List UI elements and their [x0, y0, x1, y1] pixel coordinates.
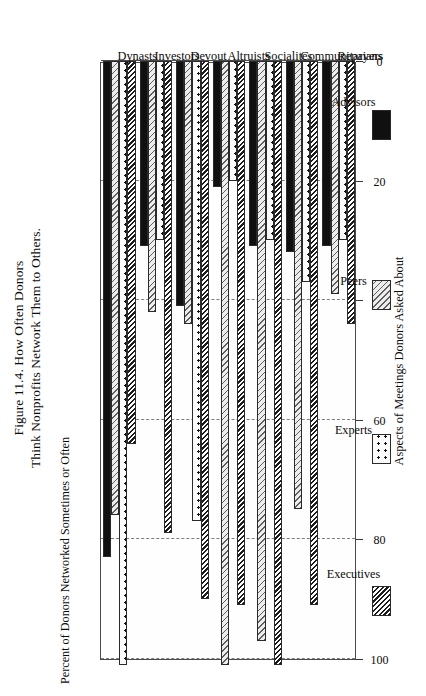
bar-socialites-experts	[266, 61, 274, 240]
bar-investors-peers	[148, 61, 156, 312]
bar-investors-experts	[156, 61, 164, 240]
bar-communitarians-experts	[302, 61, 310, 282]
bar-altruists-peers	[221, 61, 229, 665]
figure-canvas: Figure 11.4. How Often Donors Think Nonp…	[0, 0, 426, 696]
bar-dynasts-experts	[119, 61, 127, 665]
figure-title-line-2: Think Nonprofits Network Them to Others.	[27, 0, 44, 696]
bar-communitarians-peers	[294, 61, 302, 510]
legend-swatch-advisors	[372, 110, 391, 140]
bar-devout-advisors	[176, 61, 184, 306]
bar-dynasts-advisors	[103, 61, 111, 557]
legend-label-advisors: Advisors	[331, 95, 375, 110]
plot-area	[100, 62, 356, 660]
bar-devout-experts	[192, 61, 200, 521]
bar-repayers-advisors	[322, 61, 330, 246]
legend-item-experts[interactable]: Experts	[372, 434, 391, 464]
bar-socialites-peers	[257, 61, 265, 641]
bar-repayers-experts	[339, 61, 347, 240]
bar-altruists-executives	[237, 61, 245, 605]
bar-devout-executives	[201, 61, 209, 599]
legend: ExecutivesExpertsPeersAdvisors	[372, 62, 426, 660]
legend-swatch-peers	[372, 280, 391, 310]
bar-devout-peers	[184, 61, 192, 324]
bar-altruists-advisors	[213, 61, 221, 187]
legend-item-executives[interactable]: Executives	[372, 586, 391, 616]
bar-communitarians-executives	[310, 61, 318, 605]
figure-title-line-1: Figure 11.4. How Often Donors	[10, 0, 27, 696]
bar-socialites-advisors	[249, 61, 257, 246]
bar-investors-advisors	[140, 61, 148, 246]
legend-swatch-experts	[372, 434, 391, 464]
legend-item-advisors[interactable]: Advisors	[372, 110, 391, 140]
legend-item-peers[interactable]: Peers	[372, 280, 391, 310]
bar-dynasts-peers	[111, 61, 119, 515]
legend-label-peers: Peers	[340, 274, 366, 289]
figure-title: Figure 11.4. How Often Donors Think Nonp…	[10, 0, 44, 696]
bar-communitarians-advisors	[286, 61, 294, 252]
bar-altruists-experts	[229, 61, 237, 181]
legend-label-executives: Executives	[327, 567, 380, 582]
legend-label-experts: Experts	[335, 423, 372, 438]
bar-dynasts-executives	[127, 61, 135, 444]
bar-socialites-executives	[274, 61, 282, 665]
y-axis-title: Percent of Donors Networked Sometimes or…	[58, 437, 73, 684]
bar-investors-executives	[164, 61, 172, 533]
plot-inner	[101, 63, 355, 659]
legend-swatch-executives	[372, 586, 391, 616]
